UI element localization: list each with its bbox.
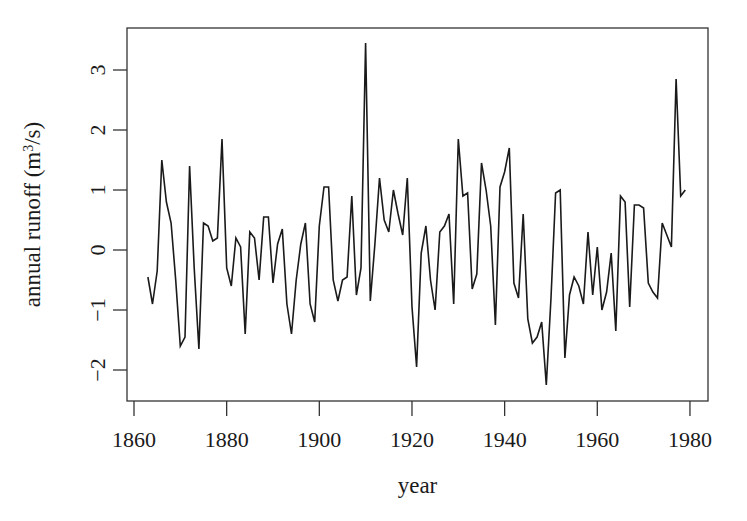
y-tick-label: −2 (85, 358, 110, 381)
y-axis-label-main: annual runoff (m (20, 152, 45, 308)
x-tick-label: 1880 (205, 427, 249, 452)
y-tick-label: 1 (85, 185, 110, 196)
y-axis-label-unit: /s) (20, 122, 45, 145)
runoff-series-line (148, 43, 685, 385)
x-tick-label: 1900 (297, 427, 341, 452)
x-axis: 1860188019001920194019601980 (112, 401, 712, 452)
x-axis-label: year (398, 473, 438, 498)
y-axis-label-superscript: 3 (21, 145, 36, 152)
y-tick-label: 0 (85, 245, 110, 256)
chart: −2−10123 1860188019001920194019601980 ye… (0, 0, 747, 521)
y-tick-label: 3 (85, 65, 110, 76)
y-tick-label: −1 (85, 298, 110, 321)
x-tick-label: 1960 (575, 427, 619, 452)
x-tick-label: 1940 (483, 427, 527, 452)
x-tick-label: 1860 (112, 427, 156, 452)
line-chart: −2−10123 1860188019001920194019601980 ye… (0, 0, 747, 521)
x-tick-label: 1920 (390, 427, 434, 452)
x-tick-label: 1980 (668, 427, 712, 452)
y-axis: −2−10123 (85, 65, 127, 382)
y-tick-label: 2 (85, 125, 110, 136)
y-axis-label: annual runoff (m3/s) (20, 122, 45, 307)
